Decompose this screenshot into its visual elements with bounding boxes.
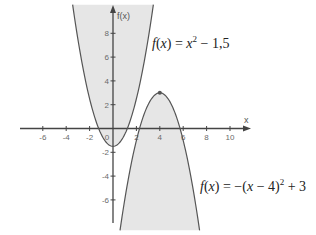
y-tick-label: 6 <box>105 53 110 62</box>
x-tick-label: 10 <box>226 133 235 142</box>
vertex-point <box>158 91 162 95</box>
y-tick-label: 2 <box>105 101 110 110</box>
x-tick-label: -4 <box>63 133 71 142</box>
formula-f1: f(x) = x2 − 1,5 <box>152 34 229 52</box>
x-tick-label: -6 <box>39 133 47 142</box>
x-axis-label: x <box>244 115 249 125</box>
x-tick-label: 0 <box>105 133 110 142</box>
x-tick-label: 4 <box>158 133 163 142</box>
y-tick-label: -4 <box>102 172 110 181</box>
x-tick-label: -2 <box>86 133 94 142</box>
y-tick-label: -6 <box>102 196 110 205</box>
function-plot: x f(x) -6-4-20246810 8642-2-4-6 f(x) = x… <box>0 0 316 235</box>
y-axis-label: f(x) <box>117 11 130 21</box>
formula-f2: f(x) = −(x − 4)2 + 3 <box>200 177 306 195</box>
y-tick-label: -2 <box>102 148 110 157</box>
y-tick-label: 8 <box>105 29 110 38</box>
x-axis-arrow-icon <box>243 126 251 132</box>
x-tick-label: 8 <box>204 133 209 142</box>
y-tick-label: 4 <box>105 77 110 86</box>
